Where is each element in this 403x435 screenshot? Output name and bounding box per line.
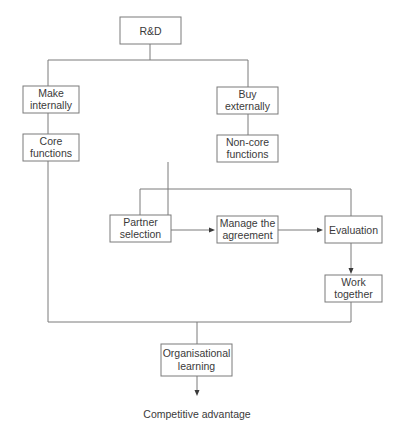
node-work-together: Work together (325, 275, 382, 302)
node-evaluation: Evaluation (325, 216, 382, 243)
node-label: learning (178, 360, 216, 372)
node-label: Partner (123, 216, 158, 228)
node-label: Core (40, 135, 63, 147)
node-label: together (334, 288, 373, 300)
node-label: Non-core (226, 136, 269, 148)
node-manage-agreement: Manage the agreement (217, 216, 278, 243)
node-label: externally (225, 100, 271, 112)
node-core-functions: Core functions (23, 134, 79, 161)
flowchart: R&D Make internally Buy externally Core … (0, 0, 403, 435)
node-rd: R&D (120, 17, 181, 44)
node-label: Evaluation (329, 224, 378, 236)
arrowhead-icon (317, 228, 323, 233)
node-label: functions (30, 147, 72, 159)
node-organisational-learning: Organisational learning (161, 344, 232, 376)
node-label: Manage the (220, 217, 276, 229)
node-label: functions (226, 148, 268, 160)
node-non-core-functions: Non-core functions (217, 135, 278, 162)
node-label: internally (30, 99, 73, 111)
arrowhead-icon (209, 228, 215, 233)
node-label: R&D (139, 25, 162, 37)
node-competitive-advantage: Competitive advantage (143, 408, 251, 420)
node-label: Buy (238, 88, 257, 100)
node-label: Competitive advantage (143, 408, 251, 420)
arrowhead-icon (195, 390, 200, 396)
node-label: Work (341, 276, 366, 288)
node-label: Organisational (163, 347, 231, 359)
connectors (48, 44, 354, 396)
arrowhead-icon (349, 268, 354, 274)
node-partner-selection: Partner selection (110, 215, 171, 242)
node-label: agreement (222, 229, 272, 241)
node-buy-externally: Buy externally (217, 87, 278, 114)
node-label: Make (38, 87, 64, 99)
node-label: selection (120, 228, 162, 240)
node-make-internally: Make internally (23, 86, 79, 113)
